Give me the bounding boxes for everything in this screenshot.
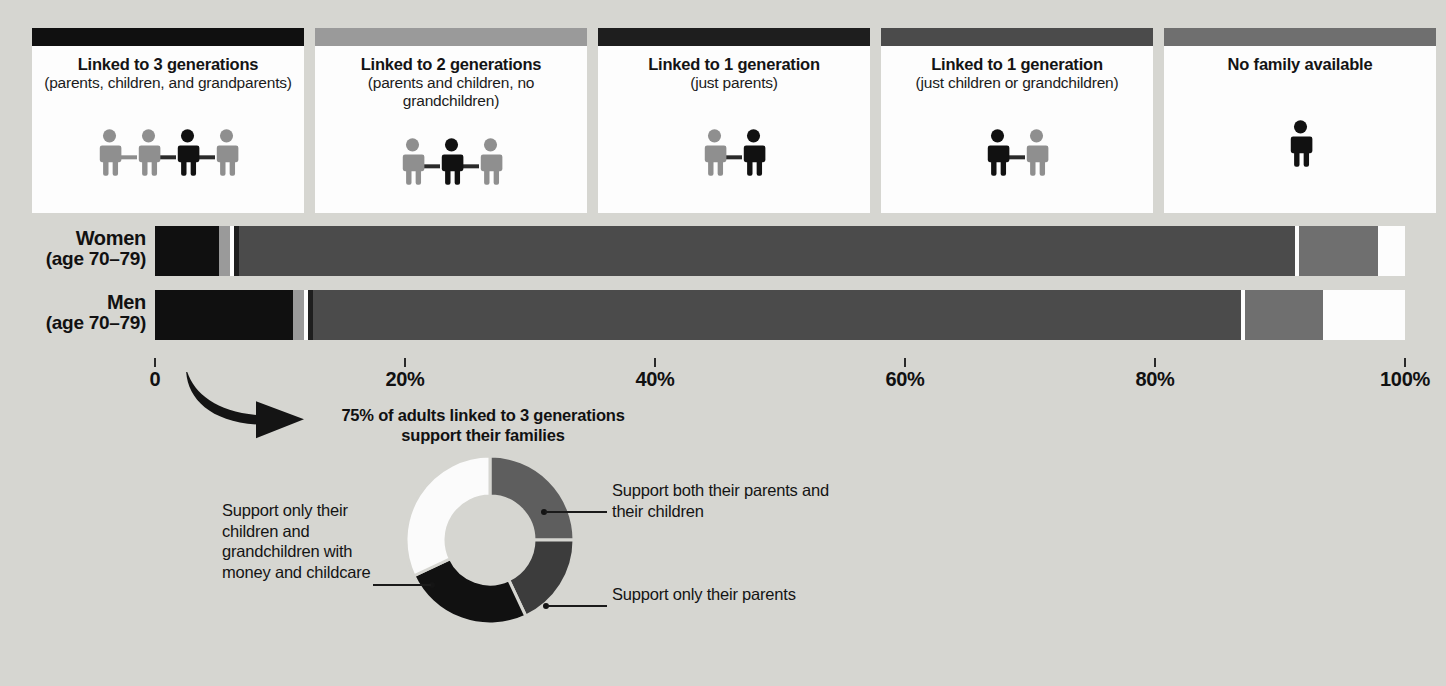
bar-segment-no-family-available <box>1245 290 1323 340</box>
two-people-chain-icon <box>598 92 870 213</box>
legend-card-body: Linked to 2 generations(parents and chil… <box>315 46 587 213</box>
bar-segment-linked-1-generation-children <box>313 290 1242 340</box>
axis-tick <box>1404 358 1406 367</box>
donut-label-both-parents-children: Support both their parents and their chi… <box>612 480 862 521</box>
person-icon <box>96 129 123 180</box>
bar-row-label-sub: (age 70–79) <box>0 313 146 333</box>
legend-card-swatch <box>1164 28 1436 46</box>
legend-card-2: Linked to 2 generations(parents and chil… <box>315 28 587 213</box>
bar-row-label-main: Men <box>107 291 146 313</box>
bar-segment-linked-2-generations <box>293 290 304 340</box>
person-icon-highlighted <box>438 138 465 189</box>
callout-block: 75% of adults linked to 3 generations su… <box>0 392 1446 686</box>
bar-row-men: Men(age 70–79) <box>0 290 1446 340</box>
stacked-bar-chart: Women(age 70–79)Men(age 70–79) 020%40%60… <box>0 222 1446 392</box>
axis-tick <box>154 358 156 367</box>
legend-card-title: Linked to 3 generations <box>72 55 265 74</box>
axis-tick-label: 40% <box>635 368 674 391</box>
callout-title: 75% of adults linked to 3 generations su… <box>333 406 633 446</box>
callout-title-line-2: support their families <box>401 426 564 444</box>
legend-card-body: No family available <box>1164 46 1436 213</box>
infographic-canvas: Linked to 3 generations(parents, childre… <box>0 0 1446 686</box>
bar-segment-linked-2-generations <box>219 226 230 276</box>
legend-card-subtitle: (parents and children, no grandchildren) <box>315 74 587 110</box>
legend-card-body: Linked to 1 generation(just children or … <box>881 46 1153 213</box>
legend-card-row: Linked to 3 generations(parents, childre… <box>32 28 1436 213</box>
callout-title-line-1: 75% of adults linked to 3 generations <box>341 406 624 424</box>
donut-label-only-parents: Support only their parents <box>612 584 862 605</box>
legend-card-title: Linked to 1 generation <box>642 55 826 74</box>
axis-tick-label: 60% <box>885 368 924 391</box>
person-icon-highlighted <box>1287 120 1314 171</box>
person-icon <box>213 129 240 180</box>
legend-card-swatch <box>315 28 587 46</box>
axis-tick-label: 0 <box>150 368 161 391</box>
single-person-icon <box>1164 74 1436 213</box>
bar-segment-linked-3-generations <box>155 290 293 340</box>
bar-segment-remainder <box>1323 290 1406 340</box>
axis-tick <box>404 358 406 367</box>
legend-card-body: Linked to 1 generation(just parents) <box>598 46 870 213</box>
three-people-chain-icon <box>315 110 587 213</box>
legend-card-title: No family available <box>1222 55 1379 74</box>
donut-label-children-grandchildren: Support only their children and grandchi… <box>222 500 372 583</box>
legend-card-title: Linked to 2 generations <box>355 55 548 74</box>
axis-tick-label: 80% <box>1135 368 1174 391</box>
legend-card-4: Linked to 1 generation(just children or … <box>881 28 1153 213</box>
bar-track <box>155 226 1405 276</box>
legend-card-3: Linked to 1 generation(just parents) <box>598 28 870 213</box>
legend-card-subtitle: (just children or grandchildren) <box>908 74 1127 92</box>
person-icon <box>399 138 426 189</box>
legend-card-subtitle: (just parents) <box>682 74 786 92</box>
four-people-chain-icon <box>32 92 304 213</box>
legend-card-swatch <box>32 28 304 46</box>
person-icon <box>477 138 504 189</box>
person-icon-highlighted <box>984 129 1011 180</box>
donut-chart <box>404 454 576 630</box>
legend-card-body: Linked to 3 generations(parents, childre… <box>32 46 304 213</box>
bar-row-label-sub: (age 70–79) <box>0 249 146 269</box>
person-icon-highlighted <box>740 129 767 180</box>
donut-leader-only-parents <box>547 605 607 607</box>
axis-tick <box>1154 358 1156 367</box>
legend-card-swatch <box>598 28 870 46</box>
two-people-chain-icon <box>881 92 1153 213</box>
bar-row-women: Women(age 70–79) <box>0 226 1446 276</box>
person-icon <box>1023 129 1050 180</box>
legend-card-swatch <box>881 28 1153 46</box>
legend-card-5: No family available <box>1164 28 1436 213</box>
bar-row-label: Women(age 70–79) <box>0 228 146 269</box>
bar-segment-remainder <box>1378 226 1406 276</box>
bar-segment-no-family-available <box>1299 226 1378 276</box>
bar-track <box>155 290 1405 340</box>
donut-hole <box>446 496 534 584</box>
axis-tick-label: 20% <box>385 368 424 391</box>
donut-leader-children-grandchildren <box>373 584 431 586</box>
bar-row-label-main: Women <box>76 227 146 249</box>
curved-arrow-icon <box>178 372 328 454</box>
legend-card-title: Linked to 1 generation <box>925 55 1109 74</box>
legend-card-1: Linked to 3 generations(parents, childre… <box>32 28 304 213</box>
donut-leader-both-parents-children <box>545 511 607 513</box>
axis-tick <box>904 358 906 367</box>
bar-row-label: Men(age 70–79) <box>0 292 146 333</box>
bar-segment-linked-3-generations <box>155 226 219 276</box>
axis-tick <box>654 358 656 367</box>
person-icon <box>135 129 162 180</box>
person-icon-highlighted <box>174 129 201 180</box>
person-icon <box>701 129 728 180</box>
axis-tick-label: 100% <box>1380 368 1430 391</box>
legend-card-subtitle: (parents, children, and grandparents) <box>36 74 300 92</box>
bar-segment-linked-1-generation-children <box>239 226 1295 276</box>
